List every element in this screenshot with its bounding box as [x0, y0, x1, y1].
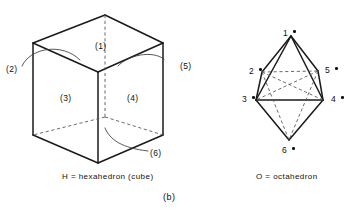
cube-edge-top-front-left: [33, 43, 98, 72]
cube-face-label-3: (3): [60, 93, 72, 103]
octa-vertex-label-5: 5: [325, 65, 330, 75]
solids-vector-drawing: [0, 0, 353, 213]
cube-edge-bottom-front-left: [33, 135, 98, 163]
cube-face-label-6: (6): [150, 148, 162, 158]
octa-vertex-dot-5: [335, 67, 338, 70]
octa-vertex-label-1: 1: [283, 28, 288, 38]
cube-edge-top-back-left: [33, 15, 105, 43]
octa-vertex-dot-1: [293, 30, 296, 33]
panel-label: (b): [163, 192, 176, 202]
octahedron-shape: [256, 36, 323, 140]
octahedron-caption: O = octahedron: [256, 172, 318, 181]
cube-face-label-5: (5): [180, 61, 192, 71]
octa-vertex-label-4: 4: [331, 94, 336, 104]
cube-hidden-edge-bottom-back-right: [105, 117, 163, 135]
hexahedron-caption: H = hexahedron (cube): [62, 172, 154, 181]
cube-hidden-edge-bottom-back-left: [33, 117, 105, 135]
octa-edge-1-4: [291, 36, 323, 100]
cube-face-label-4: (4): [127, 93, 139, 103]
hexahedron-shape: [22, 15, 164, 163]
octa-edge-3-6: [256, 100, 289, 140]
octa-vertex-label-2: 2: [249, 66, 254, 76]
figure-panel-b: (1) (2) (3) (4) (5) (6) 1 2 5 3 4 6 H = …: [0, 0, 353, 213]
leader-line-face-5: [118, 54, 164, 66]
octa-edge-4-6: [289, 100, 323, 140]
octa-edge-1-2: [262, 36, 291, 72]
octa-vertex-dot-6: [292, 147, 295, 150]
octa-vertex-dot-4: [341, 96, 344, 99]
octa-vertex-label-3: 3: [242, 94, 247, 104]
cube-face-label-2: (2): [6, 64, 18, 74]
octa-vertex-dot-2: [259, 68, 262, 71]
cube-face-label-1: (1): [95, 41, 107, 51]
octa-vertex-dot-3: [252, 96, 255, 99]
octa-hidden-edge-5-3: [256, 71, 318, 100]
octa-edge-1-5: [291, 36, 318, 71]
octa-vertex-label-6: 6: [282, 145, 287, 155]
leader-line-face-6: [105, 128, 148, 151]
cube-edge-top-back-right: [105, 15, 163, 43]
